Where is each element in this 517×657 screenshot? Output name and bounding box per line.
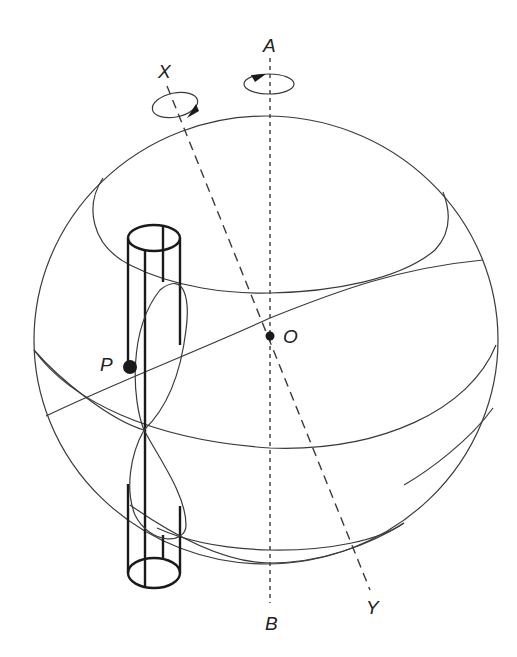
rotation-arrow-a-icon [251, 74, 266, 82]
rotation-ring-a [244, 74, 294, 94]
great-circle-right-arc [404, 408, 493, 485]
tilted-great-circle [46, 260, 483, 416]
point-p [123, 360, 137, 374]
rotation-arrow-x-icon [187, 104, 199, 118]
sphere-outline [34, 116, 498, 564]
label-b: B [265, 614, 278, 633]
lower-latitude-circle-front [157, 523, 404, 550]
cylinder-top [128, 225, 180, 251]
label-y: Y [366, 598, 379, 617]
figure-eight-curve [130, 284, 187, 539]
diagram: A X O P B Y [0, 0, 517, 657]
label-p: P [100, 355, 113, 374]
label-a: A [263, 36, 276, 55]
center-point-o [266, 332, 275, 341]
label-x: X [158, 62, 171, 81]
cylinder-bottom [128, 558, 180, 588]
diagram-canvas [0, 0, 517, 657]
label-o: O [283, 327, 298, 346]
